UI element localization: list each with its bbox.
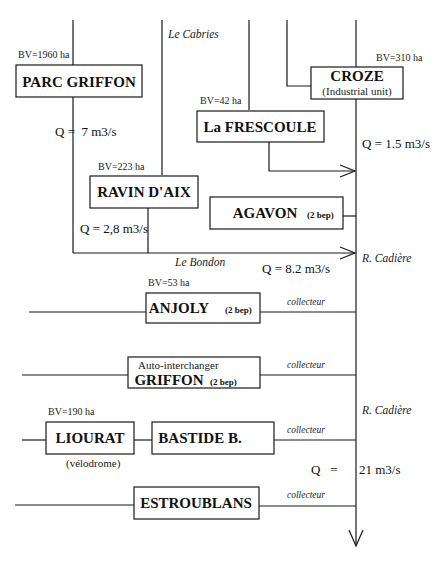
la-frescoule-label: La FRESCOULE	[204, 119, 317, 135]
node-griffon[interactable]: Auto-interchanger GRIFFON (2 bep)	[128, 357, 260, 388]
collecteur-label-1: collecteur	[287, 297, 325, 307]
node-croze[interactable]: CROZE (Industrial unit)	[311, 67, 403, 99]
q-ravin-daix: Q = 2,8 m3/s	[80, 221, 148, 236]
agavon-label: AGAVON	[233, 205, 298, 221]
node-parc-griffon[interactable]: PARC GRIFFON	[16, 65, 142, 97]
bastide-label: BASTIDE B.	[158, 430, 242, 446]
anjoly-label: ANJOLY	[149, 300, 209, 316]
r-cadiere-label-2: R. Cadière	[361, 404, 411, 416]
croze-side-inflow-line	[287, 20, 311, 86]
griffon-tag: (2 bep)	[210, 377, 237, 387]
node-la-frescoule[interactable]: La FRESCOULE	[197, 111, 324, 142]
liourat-label: LIOURAT	[56, 430, 125, 446]
node-bastide[interactable]: BASTIDE B.	[152, 422, 274, 454]
q-final-value: 21 m3/s	[359, 462, 401, 477]
q-parc-griffon: Q = 7 m3/s	[55, 124, 117, 139]
collecteur-label-3: collecteur	[287, 425, 325, 435]
parc-griffon-label: PARC GRIFFON	[22, 74, 136, 90]
parc-griffon-bv: BV=1960 ha	[18, 49, 70, 60]
q-final-label: Q =	[311, 462, 337, 477]
liourat-subtitle: (vélodrome)	[66, 457, 121, 470]
le-cabries-label: Le Cabries	[167, 28, 219, 40]
agavon-tag: (2 bep)	[307, 210, 334, 220]
node-anjoly[interactable]: ANJOLY (2 bep)	[146, 293, 260, 323]
q-bondon: Q = 8.2 m3/s	[262, 261, 330, 276]
la-frescoule-bv: BV=42 ha	[200, 95, 242, 106]
anjoly-tag: (2 bep)	[225, 305, 252, 315]
liourat-bv: BV=190 ha	[48, 406, 95, 417]
node-liourat[interactable]: LIOURAT	[46, 422, 134, 454]
le-bondon-label: Le Bondon	[174, 256, 225, 268]
node-estroublans[interactable]: ESTROUBLANS	[134, 487, 259, 519]
node-agavon[interactable]: AGAVON (2 bep)	[210, 197, 343, 229]
anjoly-bv: BV=53 ha	[148, 277, 190, 288]
ravin-daix-bv: BV=223 ha	[98, 161, 145, 172]
collecteur-label-4: collecteur	[287, 490, 325, 500]
q-croze: Q = 1.5 m3/s	[362, 136, 430, 151]
catchment-flow-diagram: PARC GRIFFON BV=1960 ha CROZE (Industria…	[0, 0, 438, 561]
griffon-label: GRIFFON	[134, 372, 203, 388]
croze-label: CROZE	[330, 68, 383, 84]
collecteur-label-2: collecteur	[287, 360, 325, 370]
griffon-subtitle: Auto-interchanger	[138, 359, 219, 371]
r-cadiere-label-1: R. Cadière	[361, 252, 411, 264]
ravin-daix-label: RAVIN D'AIX	[97, 184, 191, 200]
node-ravin-daix[interactable]: RAVIN D'AIX	[90, 176, 198, 208]
croze-subtitle: (Industrial unit)	[322, 85, 392, 98]
estroublans-label: ESTROUBLANS	[140, 495, 252, 511]
croze-bv: BV=310 ha	[376, 52, 423, 63]
